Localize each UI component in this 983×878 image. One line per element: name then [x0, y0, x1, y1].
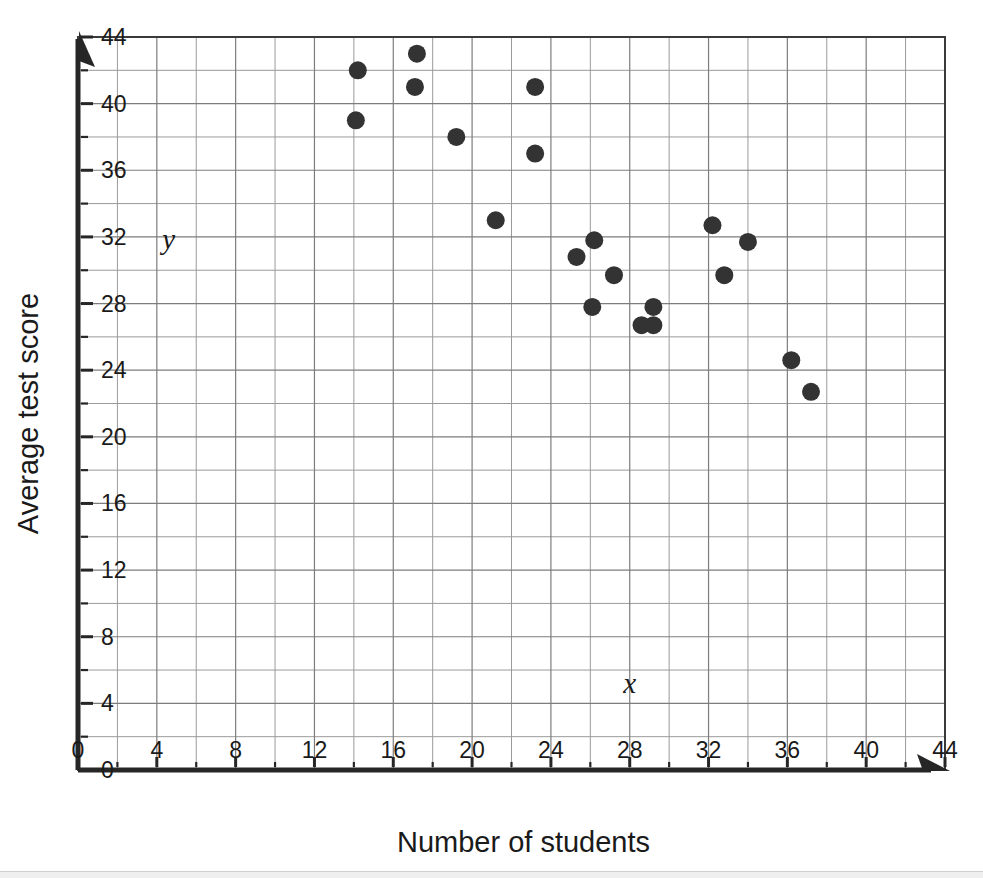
data-point [605, 266, 623, 284]
data-point [406, 78, 424, 96]
data-point [739, 233, 757, 251]
axis-lines [78, 31, 950, 771]
x-tick-label: 28 [617, 737, 643, 763]
data-point [715, 266, 733, 284]
y-tick-label: 36 [101, 157, 127, 183]
x-tick-label: 44 [932, 737, 958, 763]
data-point [349, 61, 367, 79]
y-tick-label: 12 [101, 557, 127, 583]
data-points-group [347, 45, 820, 401]
x-tick-label: 16 [380, 737, 406, 763]
scatter-plot-figure: 048121620242832364044 048121620242832364… [0, 0, 983, 878]
y-axis-title: Average test score [12, 293, 44, 534]
x-tick-label: 4 [150, 737, 163, 763]
x-tick-label: 24 [538, 737, 564, 763]
data-point [526, 78, 544, 96]
data-point [487, 211, 505, 229]
x-axis-title: Number of students [397, 826, 650, 858]
y-variable-label: y [159, 223, 175, 255]
data-point [644, 316, 662, 334]
data-point [568, 248, 586, 266]
x-tick-label: 20 [459, 737, 485, 763]
data-point [703, 216, 721, 234]
x-tick-label: 40 [853, 737, 879, 763]
data-point [447, 128, 465, 146]
x-tick-label: 32 [696, 737, 722, 763]
data-point [585, 231, 603, 249]
data-point [526, 145, 544, 163]
chart-canvas: 048121620242832364044 048121620242832364… [0, 0, 983, 878]
data-point [802, 383, 820, 401]
page-bottom-edge [0, 871, 983, 878]
y-tick-label: 8 [101, 624, 114, 650]
x-tick-label: 12 [302, 737, 328, 763]
y-tick-label: 0 [101, 757, 114, 783]
data-point [782, 351, 800, 369]
x-tick-label: 0 [72, 737, 85, 763]
y-tick-label: 40 [101, 91, 127, 117]
x-tick-labels: 048121620242832364044 [72, 737, 958, 763]
x-tick-label: 8 [229, 737, 242, 763]
y-tick-label: 4 [101, 690, 114, 716]
grid-minor-lines [78, 37, 945, 770]
data-point [583, 298, 601, 316]
y-tick-label: 44 [101, 24, 127, 50]
x-variable-label: x [622, 667, 636, 699]
x-tick-label: 36 [775, 737, 801, 763]
data-point [347, 111, 365, 129]
y-tick-label: 28 [101, 291, 127, 317]
y-tick-label: 32 [101, 224, 127, 250]
y-tick-label: 16 [101, 490, 127, 516]
y-tick-label: 24 [101, 357, 127, 383]
data-point [408, 45, 426, 63]
data-point [644, 298, 662, 316]
y-tick-label: 20 [101, 424, 127, 450]
